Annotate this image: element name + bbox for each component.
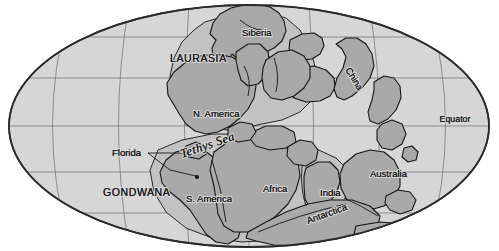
label-north-america: N. America N. America bbox=[193, 108, 240, 119]
svg-text:Siberia: Siberia bbox=[242, 27, 272, 38]
pangaea-map-svg: LAURASIA LAURASIA GONDWANA GONDWANA Sibe… bbox=[0, 0, 499, 251]
landmass-new-zealand bbox=[385, 190, 416, 214]
landmass-cimmerian-blocks bbox=[250, 126, 296, 150]
label-equator: Equator Equator bbox=[440, 114, 471, 124]
svg-text:India: India bbox=[320, 187, 341, 198]
svg-text:Florida: Florida bbox=[112, 147, 142, 158]
label-india: India India bbox=[320, 187, 341, 198]
pangaea-map-figure: LAURASIA LAURASIA GONDWANA GONDWANA Sibe… bbox=[0, 0, 499, 251]
florida-leader-dot-b bbox=[195, 175, 199, 179]
label-gondwana: GONDWANA GONDWANA bbox=[103, 186, 170, 198]
svg-text:LAURASIA: LAURASIA bbox=[170, 52, 227, 64]
label-australia: Australia Australia bbox=[370, 168, 408, 179]
svg-text:Australia: Australia bbox=[370, 168, 408, 179]
label-south-america: S. America S. America bbox=[186, 193, 233, 204]
svg-text:N. America: N. America bbox=[193, 108, 240, 119]
label-florida: Florida Florida bbox=[112, 147, 142, 158]
label-siberia: Siberia Siberia bbox=[242, 27, 272, 38]
svg-text:Equator: Equator bbox=[440, 114, 471, 124]
svg-text:S. America: S. America bbox=[186, 193, 233, 204]
label-africa: Africa Africa bbox=[263, 183, 288, 194]
label-laurasia: LAURASIA LAURASIA bbox=[170, 52, 227, 64]
svg-text:GONDWANA: GONDWANA bbox=[103, 186, 170, 198]
svg-text:Africa: Africa bbox=[263, 183, 288, 194]
